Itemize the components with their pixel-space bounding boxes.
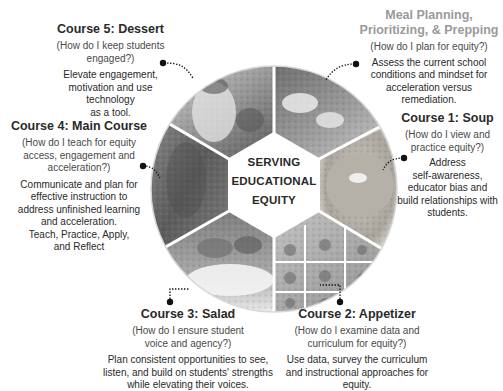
course4-desc-line: effective instruction to (8, 191, 150, 204)
course3-question-line: voice and agency?) (98, 338, 278, 351)
course2-question-line: curriculum for equity?) (277, 338, 437, 351)
course4-desc-line: and Reflect (8, 241, 150, 254)
course3-desc: Plan consistent opportunities to see, li… (98, 354, 278, 391)
course2-desc-line: equity. (277, 379, 437, 391)
course1-desc-line: Address (392, 157, 503, 170)
course3-block: Course 3: Salad (How do I ensure student… (98, 307, 278, 391)
course2-desc: Use data, survey the curriculum and inst… (277, 354, 437, 391)
course1-desc-line: educator bias and (392, 182, 503, 195)
meal-planning-block: Meal Planning, Prioritizing, & Prepping … (355, 8, 503, 107)
course4-desc-line: Teach, Practice, Apply, (8, 229, 150, 242)
course4-title: Course 4: Main Course (8, 119, 150, 134)
center-line-2: EDUCATIONAL (224, 172, 324, 191)
course5-question-line: (How do I keep students (48, 40, 173, 53)
center-line-1: SERVING (224, 153, 324, 172)
course1-title: Course 1: Soup (392, 111, 503, 126)
course1-question-line: (How do I view and (392, 129, 503, 142)
course4-question: (How do I teach for equity access, engag… (8, 137, 150, 175)
course5-desc: Elevate engagement, motivation and use t… (48, 69, 173, 119)
meal-planning-desc-line: remediation. (355, 94, 503, 107)
course4-question-line: access, engagement and (8, 150, 150, 163)
course3-question: (How do I ensure student voice and agenc… (98, 325, 278, 350)
course2-desc-line: and instructional approaches for (277, 367, 437, 380)
course5-desc-line: Elevate engagement, (48, 69, 173, 82)
course4-desc: Communicate and plan for effective instr… (8, 179, 150, 254)
course2-question-line: (How do I examine data and (277, 325, 437, 338)
course1-question-line: practice equity?) (392, 142, 503, 155)
course5-question: (How do I keep students engaged?) (48, 40, 173, 65)
meal-planning-question: (How do I plan for equity?) (355, 41, 503, 54)
course3-desc-line: while elevating their voices. (98, 379, 278, 391)
course1-desc-line: build relationships with (392, 195, 503, 208)
course5-question-line: engaged?) (48, 53, 173, 66)
course3-desc-line: listen, and build on students' strengths (98, 367, 278, 380)
course1-question: (How do I view and practice equity?) (392, 129, 503, 154)
meal-planning-title: Meal Planning, Prioritizing, & Prepping (355, 8, 503, 38)
course3-title: Course 3: Salad (98, 307, 278, 322)
meal-planning-desc-line: acceleration versus (355, 82, 503, 95)
course3-desc-line: Plan consistent opportunities to see, (98, 354, 278, 367)
course5-desc-line: as a tool. (48, 107, 173, 120)
course1-block: Course 1: Soup (How do I view and practi… (392, 111, 503, 220)
course5-desc-line: motivation and use technology (48, 82, 173, 107)
course4-block: Course 4: Main Course (How do I teach fo… (8, 119, 150, 254)
meal-planning-desc-line: conditions and mindset for (355, 69, 503, 82)
course4-desc-line: and acceleration. (8, 216, 150, 229)
course1-desc-line: students. (392, 207, 503, 220)
course5-title: Course 5: Dessert (48, 22, 173, 37)
course1-desc-line: self-awareness, (392, 170, 503, 183)
center-line-3: EQUITY (224, 191, 324, 210)
course2-block: Course 2: Appetizer (How do I examine da… (277, 307, 437, 391)
course1-desc: Address self-awareness, educator bias an… (392, 157, 503, 220)
connector-dot-course2 (337, 299, 343, 305)
course4-desc-line: Communicate and plan for (8, 179, 150, 192)
course5-block: Course 5: Dessert (How do I keep student… (48, 22, 173, 119)
meal-planning-title-line: Prioritizing, & Prepping (355, 23, 503, 38)
course4-desc-line: address unfinished learning (8, 204, 150, 217)
course3-question-line: (How do I ensure student (98, 325, 278, 338)
connector-dot-course3 (167, 299, 173, 305)
course2-desc-line: Use data, survey the curriculum (277, 354, 437, 367)
meal-planning-desc: Assess the current school conditions and… (355, 57, 503, 107)
course4-question-line: acceleration?) (8, 162, 150, 175)
course2-title: Course 2: Appetizer (277, 307, 437, 322)
meal-planning-title-line: Meal Planning, (355, 8, 503, 23)
meal-planning-desc-line: Assess the current school (355, 57, 503, 70)
course2-question: (How do I examine data and curriculum fo… (277, 325, 437, 350)
center-label: SERVING EDUCATIONAL EQUITY (224, 153, 324, 210)
course4-question-line: (How do I teach for equity (8, 137, 150, 150)
